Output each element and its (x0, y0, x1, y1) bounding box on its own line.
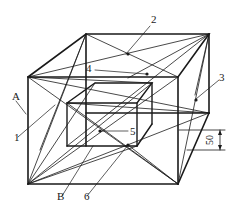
label-3: 3 (219, 71, 225, 83)
point-6-marker (126, 143, 129, 146)
point-2-marker (126, 52, 129, 55)
label-6: 6 (84, 190, 90, 202)
diagram-canvas: 2 4 3 A 1 5 B 6 50 (0, 0, 232, 207)
box-diagram: 2 4 3 A 1 5 B 6 50 (0, 0, 232, 207)
inner-box (67, 83, 152, 146)
label-1: 1 (14, 131, 20, 143)
dimension-label: 50 (204, 135, 215, 145)
label-A: A (12, 90, 20, 102)
point-5-marker (98, 129, 101, 132)
point-4-marker (145, 72, 148, 75)
point-3-marker (194, 98, 197, 101)
marker-dots (98, 52, 197, 146)
label-4: 4 (86, 62, 92, 74)
label-5: 5 (130, 125, 136, 137)
label-B: B (57, 190, 64, 202)
label-2: 2 (151, 13, 157, 25)
